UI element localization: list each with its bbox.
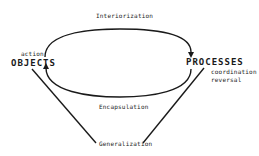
generalization-left-line <box>32 69 96 143</box>
interiorization-arc <box>45 29 191 57</box>
objects-node: OBJECTS <box>11 59 56 68</box>
interiorization-label: Interiorization <box>96 13 153 19</box>
encapsulation-arc <box>46 68 191 97</box>
generalization-label: Generalization <box>99 141 152 147</box>
diagram-canvas: Interiorization action OBJECTS PROCESSES… <box>0 0 259 156</box>
processes-node: PROCESSES <box>186 58 244 67</box>
encapsulation-label: Encapsulation <box>99 104 149 110</box>
generalization-right-line <box>143 68 204 143</box>
coordination-label: coordination <box>211 69 257 75</box>
reversal-label: reversal <box>211 77 242 83</box>
action-label: action <box>21 51 44 57</box>
